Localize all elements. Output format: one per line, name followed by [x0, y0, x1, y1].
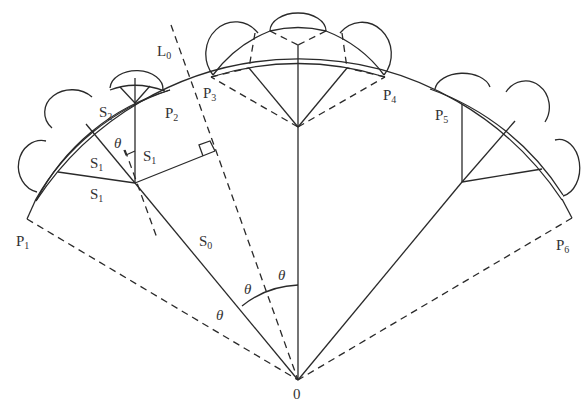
left-bump-1	[18, 141, 46, 192]
right-hub-diag	[462, 121, 515, 182]
center-mid-arc	[270, 28, 326, 32]
radius-right	[298, 182, 462, 380]
label-s0: S0	[199, 233, 212, 251]
label-l0: L0	[157, 43, 171, 61]
sector-diagram: L0 S2 P2 P3 P4 P5 S1 S1 S1 P1 P6 S0 0 θ …	[0, 0, 586, 402]
theta-right: θ	[278, 267, 286, 283]
center-dash-left	[211, 77, 298, 127]
label-s1-mid: S1	[90, 155, 103, 173]
left-tri-arc	[110, 85, 165, 91]
chord-o-p6	[298, 218, 572, 380]
hex-dash-3	[270, 31, 298, 45]
label-p5: P5	[435, 107, 448, 125]
label-p3: P3	[203, 85, 216, 103]
label-s1-low: S1	[90, 186, 103, 204]
label-p6: P6	[556, 237, 569, 255]
left-bump-2	[45, 90, 92, 128]
right-bump-2	[506, 81, 549, 122]
label-s1-right: S1	[143, 148, 156, 166]
label-p1: P1	[16, 233, 29, 251]
label-p2: P2	[165, 105, 178, 123]
center-hub-right	[298, 68, 347, 127]
center-dash-right	[298, 77, 385, 127]
radius-s0	[135, 183, 298, 380]
theta-left: θ	[244, 281, 252, 297]
label-origin: 0	[293, 386, 301, 402]
label-p4: P4	[383, 87, 396, 105]
right-hub-right	[462, 169, 542, 182]
center-hub-left	[249, 68, 298, 127]
center-bump-right	[340, 22, 391, 75]
left-tri-a	[120, 87, 135, 103]
label-s2: S2	[99, 104, 112, 122]
theta-top: θ	[114, 135, 122, 151]
theta-low: θ	[216, 307, 224, 323]
left-hub-left	[58, 172, 135, 183]
right-bump-1	[435, 73, 490, 89]
chord-o-p1	[27, 219, 298, 380]
p1-edge	[27, 199, 36, 219]
hex-dash-4	[298, 31, 326, 45]
center-bump-top	[270, 13, 326, 31]
left-hub-diag	[86, 124, 135, 183]
p6-edge	[562, 199, 572, 218]
